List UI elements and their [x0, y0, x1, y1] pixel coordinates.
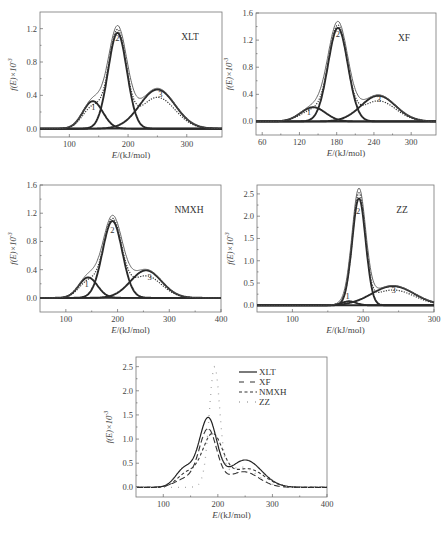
figure: 1002003000.00.40.81.2E/(kJ/mol)f(E)×10-3…: [0, 0, 442, 536]
y-tick-label: 0.0: [122, 482, 133, 492]
x-axis-label: E/(kJ/mol): [211, 510, 251, 520]
peak-2-curve: [40, 221, 221, 298]
y-tick-label: 1.5: [243, 233, 254, 243]
y-tick-label: 0.4: [242, 89, 253, 99]
peak-1-curve: [256, 107, 436, 121]
y-tick-label: 2.0: [122, 386, 133, 396]
y-tick-label: 0.8: [26, 236, 37, 246]
peak-label: 3: [158, 89, 162, 99]
peak-label: 1: [84, 279, 88, 289]
peak-label: 2: [336, 29, 340, 39]
y-tick-label: 0.5: [243, 278, 254, 288]
y-tick-label: 1.2: [26, 208, 37, 218]
y-tick-label: 0.5: [122, 458, 133, 468]
x-axis-label: E/(kJ/mol): [325, 325, 365, 335]
peak-label: 3: [392, 285, 396, 295]
series-zz-curve: [136, 367, 327, 488]
y-tick-label: 1.5: [122, 410, 133, 420]
plot-frame: [136, 357, 327, 497]
y-tick-label: 1.2: [26, 24, 37, 34]
series-nmxh-curve: [136, 433, 327, 487]
x-tick-label: 100: [59, 314, 72, 324]
peak-label: 1: [91, 102, 95, 112]
panel-title: XF: [398, 33, 410, 43]
y-tick-label: 0.4: [26, 265, 37, 275]
x-tick-label: 60: [258, 137, 267, 147]
panel-xf: 601201802403000.00.40.81.21.6E/(kJ/mol)f…: [223, 8, 436, 158]
y-tick-label: 0.0: [26, 293, 37, 303]
x-tick-label: 180: [330, 137, 343, 147]
x-tick-label: 200: [211, 499, 224, 509]
x-tick-label: 300: [266, 499, 279, 509]
panel-nmxh: 1002003004000.00.40.81.21.6E/(kJ/mol)f(E…: [7, 180, 227, 335]
x-tick-label: 200: [122, 139, 135, 149]
y-tick-label: 0.0: [243, 300, 254, 310]
y-tick-label: 1.6: [242, 8, 253, 18]
x-tick-label: 400: [215, 314, 228, 324]
y-axis-label: f(E)×10-3: [103, 411, 114, 443]
y-tick-label: 1.0: [122, 434, 133, 444]
x-tick-label: 300: [428, 314, 441, 324]
y-tick-label: 1.0: [243, 256, 254, 266]
x-tick-label: 240: [368, 137, 381, 147]
panel-title: ZZ: [396, 205, 408, 215]
y-tick-label: 0.8: [26, 57, 37, 67]
series-xf-curve: [136, 428, 327, 487]
y-axis-label: f(E)×10-3: [7, 232, 18, 264]
peak-label: 1: [345, 291, 349, 301]
x-tick-label: 400: [321, 499, 334, 509]
peak-label: 2: [110, 225, 114, 235]
y-tick-label: 2.0: [243, 211, 254, 221]
x-tick-label: 200: [357, 314, 370, 324]
plot-frame: [40, 12, 222, 137]
x-axis-label: E/(kJ/mol): [111, 150, 151, 160]
y-tick-label: 2.5: [243, 189, 254, 199]
series-xlt-curve: [136, 417, 327, 487]
legend-label-zz: ZZ: [259, 397, 270, 407]
x-tick-label: 100: [63, 139, 76, 149]
x-tick-label: 200: [111, 314, 124, 324]
panel-combined: 1002003004000.00.51.01.52.02.5E/(kJ/mol)…: [103, 357, 333, 520]
x-axis-label: E/(kJ/mol): [326, 148, 366, 158]
legend-label-xf: XF: [259, 377, 271, 387]
y-tick-label: 0.8: [242, 62, 253, 72]
y-axis-label: f(E)×10-3: [224, 232, 235, 264]
x-axis-label: E/(kJ/mol): [110, 325, 150, 335]
legend-label-xlt: XLT: [259, 367, 276, 377]
y-axis-label: f(E)×10-3: [7, 58, 18, 90]
legend-label-nmxh: NMXH: [259, 387, 287, 397]
x-tick-label: 120: [293, 137, 306, 147]
y-tick-label: 1.2: [242, 35, 253, 45]
peak-label: 2: [356, 206, 360, 216]
x-tick-label: 100: [286, 314, 299, 324]
y-tick-label: 2.5: [122, 362, 133, 372]
y-tick-label: 0.4: [26, 90, 37, 100]
peak-label: 1: [307, 107, 311, 117]
y-tick-label: 1.6: [26, 180, 37, 190]
x-tick-label: 300: [405, 137, 418, 147]
x-tick-label: 300: [180, 139, 193, 149]
panel-title: NMXH: [174, 205, 203, 215]
x-tick-label: 300: [163, 314, 176, 324]
peak-label: 2: [115, 33, 119, 43]
peak-label: 3: [148, 272, 152, 282]
panel-zz: 1002003000.00.51.01.52.02.5E/(kJ/mol)f(E…: [224, 185, 440, 335]
panel-xlt: 1002003000.00.40.81.2E/(kJ/mol)f(E)×10-3…: [7, 12, 222, 160]
peak-label: 3: [377, 94, 381, 104]
y-tick-label: 0.0: [242, 116, 253, 126]
x-tick-label: 100: [157, 499, 170, 509]
y-tick-label: 0.0: [26, 124, 37, 134]
y-axis-label: f(E)×10-3: [223, 58, 234, 90]
panel-title: XLT: [181, 32, 199, 42]
